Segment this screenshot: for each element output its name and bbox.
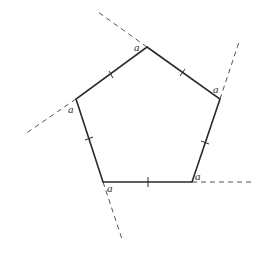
angle-label-bottom-right: a bbox=[195, 170, 201, 182]
extension-line-top bbox=[98, 12, 147, 47]
extension-line-right bbox=[220, 42, 239, 99]
angle-label-bottom-left: a bbox=[107, 182, 113, 194]
exterior-angle-labels: aaaaa bbox=[68, 41, 219, 194]
angle-label-right: a bbox=[213, 83, 219, 95]
angle-label-top: a bbox=[134, 41, 140, 53]
regular-pentagon bbox=[76, 47, 220, 182]
angle-label-left: a bbox=[68, 103, 74, 115]
pentagon-diagram: aaaaa bbox=[0, 0, 269, 259]
tick-mark-top-right bbox=[180, 69, 185, 76]
extension-line-bottom-left bbox=[103, 182, 122, 239]
pentagon-svg: aaaaa bbox=[0, 0, 269, 259]
dashed-extensions bbox=[25, 12, 255, 239]
equal-side-tick-marks bbox=[85, 69, 209, 187]
